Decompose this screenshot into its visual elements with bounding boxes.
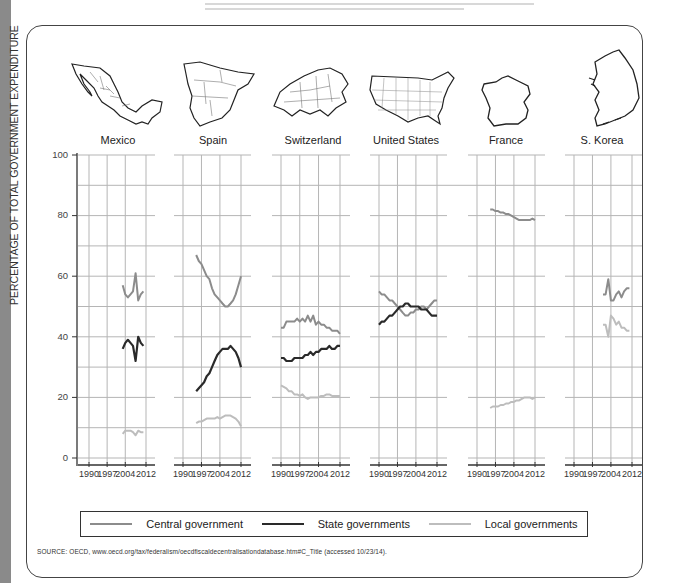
x-tick-label: 2004 [601, 469, 621, 479]
x-tick-label: 2012 [231, 469, 251, 479]
series-line-local-governments [603, 316, 629, 337]
x-tick-label: 2012 [330, 469, 350, 479]
chart-legend: Central government State governments Loc… [80, 511, 588, 537]
legend-item-state: State governments [262, 518, 410, 530]
x-tick-label: 1990 [79, 469, 99, 479]
series-line-central-government [196, 255, 241, 307]
legend-swatch-state [262, 523, 304, 525]
x-tick-label: 1990 [467, 469, 487, 479]
x-tick-label: 2004 [309, 469, 329, 479]
x-tick-label: 1990 [564, 469, 584, 479]
legend-swatch-central [90, 523, 132, 525]
x-tick-label: 2004 [504, 469, 524, 479]
legend-label-state: State governments [318, 518, 410, 530]
x-tick-label: 1997 [485, 469, 505, 479]
series-line-state-governments [196, 346, 241, 391]
x-tick-label: 2012 [525, 469, 545, 479]
legend-label-local: Local governments [485, 518, 578, 530]
x-tick-label: 1990 [173, 469, 193, 479]
x-tick-label: 2004 [406, 469, 426, 479]
legend-swatch-local [429, 523, 471, 525]
x-tick-label: 1997 [387, 469, 407, 479]
x-tick-label: 1997 [191, 469, 211, 479]
series-line-local-governments [196, 416, 241, 427]
series-line-local-governments [281, 385, 340, 399]
series-line-local-governments [123, 431, 144, 436]
x-tick-label: 1997 [97, 469, 117, 479]
x-tick-label: 2004 [210, 469, 230, 479]
x-tick-label: 1990 [271, 469, 291, 479]
series-line-central-government [123, 273, 144, 300]
x-tick-label: 2012 [136, 469, 156, 479]
series-line-state-governments [123, 337, 144, 361]
series-line-central-government [603, 279, 629, 300]
series-line-local-governments [490, 397, 535, 408]
x-tick-label: 2004 [115, 469, 135, 479]
series-line-central-government [281, 316, 340, 334]
legend-item-central: Central government [90, 518, 243, 530]
x-tick-label: 1997 [290, 469, 310, 479]
x-tick-label: 2012 [427, 469, 447, 479]
small-multiples-plot [0, 0, 685, 583]
x-tick-label: 1990 [369, 469, 389, 479]
source-note: SOURCE: OECD, www.oecd.org/tax/federalis… [37, 548, 387, 555]
x-tick-label: 2012 [622, 469, 642, 479]
series-line-state-governments [281, 346, 340, 361]
series-line-central-government [490, 210, 535, 221]
x-tick-label: 1997 [582, 469, 602, 479]
legend-label-central: Central government [146, 518, 243, 530]
legend-item-local: Local governments [429, 518, 578, 530]
